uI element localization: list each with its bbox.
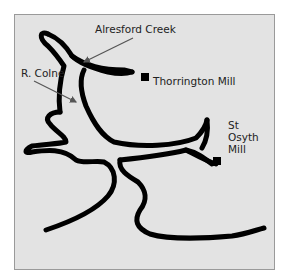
alresford-creek-label: Alresford Creek xyxy=(95,23,176,35)
st-osyth-mill-marker-icon xyxy=(213,157,221,165)
thorrington-mill-marker-icon xyxy=(141,73,149,81)
river-colne-lower-east xyxy=(120,160,264,238)
st-osyth-creek-inner xyxy=(186,150,216,164)
alresford-pointer-line xyxy=(84,38,133,62)
alresford-creek-north xyxy=(72,56,132,72)
colne-pointer-line xyxy=(34,81,76,102)
river-colne-label: R. Colne xyxy=(21,67,64,79)
thorrington-mill-label: Thorrington Mill xyxy=(153,75,236,87)
st-osyth-mill-label: St Osyth Mill xyxy=(228,119,272,155)
